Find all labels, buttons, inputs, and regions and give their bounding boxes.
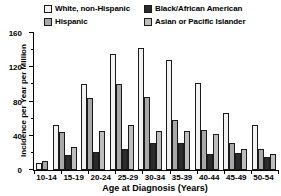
- x-tick-9: [278, 170, 279, 174]
- bar: [241, 149, 247, 170]
- legend-swatch-white-non-hispanic: [44, 5, 52, 13]
- chart-legend: White, non-Hispanic Black/African Americ…: [44, 2, 274, 28]
- incidence-bar-chart: White, non-Hispanic Black/African Americ…: [0, 0, 281, 196]
- bar-group-15-19: [53, 33, 77, 170]
- bar-group-25-29: [110, 33, 134, 170]
- bar: [156, 131, 162, 170]
- legend-item-black-african-american: Black/African American: [144, 2, 274, 15]
- bar: [128, 125, 134, 170]
- legend-label-white-non-hispanic: White, non-Hispanic: [55, 5, 130, 13]
- bar: [42, 161, 48, 170]
- legend-label-asian-pacific-islander: Asian or Pacific Islander: [155, 18, 245, 26]
- bar-group-50-54: [252, 33, 276, 170]
- bar: [270, 154, 276, 170]
- legend-swatch-black-african-american: [144, 5, 152, 13]
- bar-group-40-44: [195, 33, 219, 170]
- bar-group-10-14: [36, 33, 48, 170]
- bar: [71, 147, 77, 170]
- legend-item-hispanic: Hispanic: [44, 15, 144, 28]
- legend-item-asian-pacific-islander: Asian or Pacific Islander: [144, 15, 274, 28]
- legend-label-hispanic: Hispanic: [55, 18, 88, 26]
- y-tick-label-160: 160: [9, 29, 22, 38]
- bar-group-20-24: [81, 33, 105, 170]
- bar-group-30-34: [138, 33, 162, 170]
- legend-item-white-non-hispanic: White, non-Hispanic: [44, 2, 144, 15]
- y-tick-label-0: 0: [18, 166, 22, 175]
- bar-group-35-39: [166, 33, 190, 170]
- bar: [213, 134, 219, 170]
- legend-swatch-hispanic: [44, 18, 52, 26]
- y-tick-label-120: 120: [9, 63, 22, 72]
- x-axis-label: Age at Diagnosis (Years): [33, 183, 277, 193]
- bar-group-45-49: [223, 33, 247, 170]
- y-tick-label-80: 80: [13, 97, 22, 106]
- legend-swatch-asian-pacific-islander: [144, 18, 152, 26]
- bar: [99, 131, 105, 170]
- legend-label-black-african-american: Black/African American: [155, 5, 242, 13]
- y-tick-label-40: 40: [13, 131, 22, 140]
- plot-area: 04080120160: [33, 33, 278, 171]
- bar-groups: [34, 33, 278, 170]
- bar: [184, 131, 190, 170]
